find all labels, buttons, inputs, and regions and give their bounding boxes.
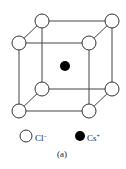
- cl-atom-back-top-right: [105, 14, 119, 28]
- legend-cl-label: Cl−: [35, 131, 47, 143]
- cl-atom-back-top-left: [35, 14, 49, 28]
- cscl-unit-cell-diagram: [0, 0, 126, 169]
- cs-center-atom: [60, 61, 70, 71]
- cl-atom-front-bottom-right: [82, 104, 96, 118]
- cl-atom-back-bottom-left: [35, 82, 49, 96]
- legend-cl-charge: −: [44, 133, 47, 139]
- cl-atom-front-top-right: [82, 36, 96, 50]
- legend-cl-text: Cl: [35, 133, 44, 143]
- cl-atom-front-top-left: [12, 36, 26, 50]
- legend-open-circle-icon: [20, 130, 32, 142]
- legend-cs-label: Cs+: [87, 131, 100, 143]
- legend-cs-text: Cs: [87, 133, 97, 143]
- figure-caption: (a): [57, 149, 67, 159]
- legend-filled-circle-icon: [75, 131, 85, 141]
- cl-atom-back-bottom-right: [105, 82, 119, 96]
- cl-atom-front-bottom-left: [12, 104, 26, 118]
- legend-cs-charge: +: [97, 133, 100, 139]
